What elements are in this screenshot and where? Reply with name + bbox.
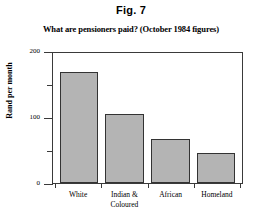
y-tick-label: 200: [12, 48, 40, 55]
figure-label: Fig. 7: [0, 4, 262, 16]
bar-slot: [193, 53, 239, 183]
x-tick: [148, 184, 149, 188]
plot-area: [52, 52, 243, 184]
y-tick-label: 100: [12, 114, 40, 121]
bar-slot: [148, 53, 194, 183]
x-tick: [240, 184, 241, 188]
bar-indian-coloured[interactable]: [105, 114, 143, 183]
bar-white[interactable]: [60, 72, 98, 183]
x-tick: [194, 184, 195, 188]
chart-title: What are pensioners paid? (October 1984 …: [0, 24, 262, 34]
figure-container: Fig. 7 What are pensioners paid? (Octobe…: [0, 0, 262, 223]
bar-homeland[interactable]: [197, 153, 235, 183]
x-tick: [101, 184, 102, 188]
x-tick: [55, 184, 56, 188]
x-tick-label-line: Homeland: [188, 190, 246, 200]
bar-african[interactable]: [151, 139, 189, 183]
bar-slot: [56, 53, 102, 183]
bar-slot: [102, 53, 148, 183]
x-tick-label: Homeland: [188, 190, 246, 200]
y-tick-label: 0: [12, 180, 40, 187]
bar-series: [53, 53, 242, 183]
x-tick-label-line: Coloured: [95, 200, 153, 210]
